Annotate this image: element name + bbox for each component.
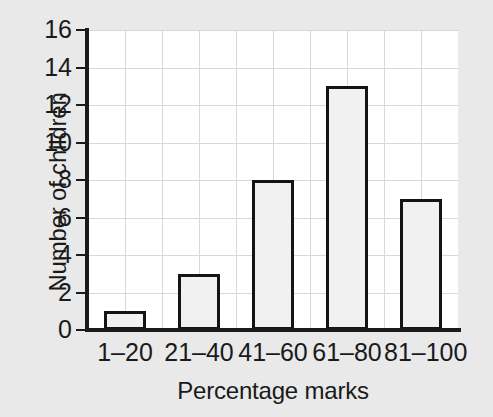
y-tick-label: 14	[10, 55, 72, 80]
y-tick-label-text: 12	[12, 92, 72, 117]
x-tick-label: 61–80	[310, 338, 384, 366]
x-tick-label: 21–40	[162, 338, 236, 366]
x-axis-title: Percentage marks	[88, 377, 458, 405]
y-tick-label-text: 10	[12, 130, 72, 155]
y-tick-label: 2	[10, 280, 72, 305]
y-tick-label-text: 14	[12, 55, 72, 80]
y-tick-label-text: 16	[12, 17, 72, 42]
y-tick-label: 16	[10, 17, 72, 42]
y-tick-label: 6	[10, 205, 72, 230]
gridline-vertical	[310, 30, 311, 330]
x-axis-line	[85, 328, 461, 332]
x-tick-label: 41–60	[236, 338, 310, 366]
plot-area	[88, 30, 458, 330]
x-axis-tick-labels: 1–2021–4041–6061–8081–100	[88, 338, 462, 370]
y-axis-ticks: 0246810121416	[0, 0, 88, 417]
y-tick-label-text: 4	[12, 242, 72, 267]
bar	[400, 199, 442, 330]
bar	[178, 274, 220, 330]
y-tick-label: 4	[10, 242, 72, 267]
x-tick-label: 81–100	[384, 338, 458, 366]
y-tick-label-text: 0	[12, 317, 72, 342]
bar	[326, 86, 368, 330]
y-tick-label-text: 8	[12, 167, 72, 192]
y-axis-line	[85, 28, 89, 332]
bar	[252, 180, 294, 330]
gridline-vertical	[162, 30, 163, 330]
y-tick-label-text: 2	[12, 280, 72, 305]
y-tick-label-text: 6	[12, 205, 72, 230]
y-tick-label: 10	[10, 130, 72, 155]
x-tick-label: 1–20	[88, 338, 162, 366]
gridline-vertical	[236, 30, 237, 330]
gridline-vertical	[125, 30, 126, 330]
y-tick-label: 8	[10, 167, 72, 192]
y-tick-label: 12	[10, 92, 72, 117]
y-tick-label: 0	[10, 317, 72, 342]
gridline-vertical	[384, 30, 385, 330]
bar-chart-figure: Number of children 0246810121416 1–2021–…	[0, 0, 493, 417]
